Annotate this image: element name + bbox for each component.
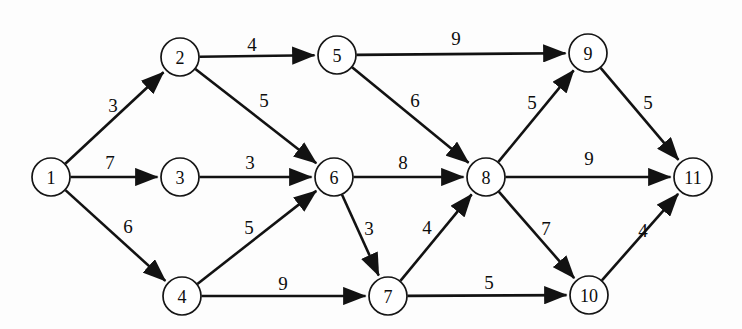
edge-5-to-8 xyxy=(352,67,469,162)
node-1[interactable]: 1 xyxy=(32,158,70,196)
edge-7-to-8 xyxy=(400,194,471,281)
node-label-7: 7 xyxy=(384,287,393,307)
edge-weight-1-3: 7 xyxy=(105,152,115,173)
edge-weight-5-8: 6 xyxy=(410,90,420,111)
node-label-8: 8 xyxy=(482,168,491,188)
node-9[interactable]: 9 xyxy=(569,34,607,72)
edge-7-to-10 xyxy=(407,295,566,296)
edges-layer xyxy=(65,53,678,296)
directed-graph-figure: 3764535996834559754 1234567891011 xyxy=(0,0,742,329)
node-label-5: 5 xyxy=(333,46,342,66)
graph-canvas: 3764535996834559754 1234567891011 xyxy=(0,0,742,329)
node-6[interactable]: 6 xyxy=(315,158,353,196)
edge-weight-5-9: 9 xyxy=(451,28,461,49)
edge-weight-2-5: 4 xyxy=(247,34,257,55)
edge-weight-8-9: 5 xyxy=(527,92,537,113)
node-10[interactable]: 10 xyxy=(570,276,608,314)
edge-weight-10-11: 4 xyxy=(638,220,648,241)
edge-weight-6-7: 3 xyxy=(364,218,374,239)
node-8[interactable]: 8 xyxy=(467,158,505,196)
node-label-3: 3 xyxy=(176,168,185,188)
edge-2-to-5 xyxy=(199,55,314,56)
node-label-1: 1 xyxy=(47,168,56,188)
node-2[interactable]: 2 xyxy=(161,38,199,76)
edge-weight-8-10: 7 xyxy=(541,218,551,239)
edge-weight-1-4: 6 xyxy=(123,216,133,237)
edge-weight-8-11: 9 xyxy=(584,148,594,169)
node-label-11: 11 xyxy=(684,168,701,188)
node-label-10: 10 xyxy=(580,286,598,306)
node-label-6: 6 xyxy=(330,168,339,188)
edge-4-to-6 xyxy=(197,191,316,284)
edge-weight-7-8: 4 xyxy=(422,217,432,238)
edge-weight-9-11: 5 xyxy=(643,92,653,113)
edge-weight-2-6: 5 xyxy=(259,90,269,111)
node-5[interactable]: 5 xyxy=(318,36,356,74)
node-3[interactable]: 3 xyxy=(161,158,199,196)
edge-1-to-2 xyxy=(65,72,163,163)
edge-2-to-6 xyxy=(195,69,316,163)
node-4[interactable]: 4 xyxy=(163,277,201,315)
node-7[interactable]: 7 xyxy=(369,277,407,315)
node-11[interactable]: 11 xyxy=(674,158,712,196)
node-label-2: 2 xyxy=(176,48,185,68)
edge-weight-7-10: 5 xyxy=(484,272,494,293)
edge-weight-6-8: 8 xyxy=(398,152,408,173)
edge-weight-1-2: 3 xyxy=(108,95,118,116)
edge-weight-4-6: 5 xyxy=(244,217,254,238)
edge-1-to-4 xyxy=(65,190,165,281)
edge-8-to-10 xyxy=(499,192,574,278)
edge-9-to-11 xyxy=(601,68,679,160)
edge-weight-3-6: 3 xyxy=(245,152,255,173)
node-label-4: 4 xyxy=(178,287,187,307)
edge-weight-4-7: 9 xyxy=(278,273,288,294)
edge-5-to-9 xyxy=(356,53,565,55)
edge-8-to-9 xyxy=(498,70,573,162)
node-label-9: 9 xyxy=(584,44,593,64)
